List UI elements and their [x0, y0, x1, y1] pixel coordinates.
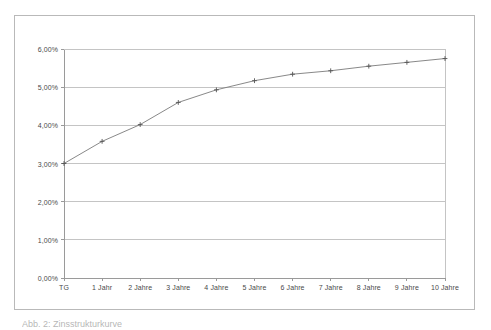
y-tick-label: 0,00%	[15, 275, 58, 282]
x-tick-label: TG	[59, 284, 69, 291]
data-point-marker	[214, 87, 219, 92]
x-tick-label: 4 Jahre	[204, 284, 228, 291]
x-tick-label: 8 Jahre	[357, 284, 381, 291]
y-tick-label: 5,00%	[15, 84, 58, 91]
figure-caption: Abb. 2: Zinsstrukturkurve	[22, 319, 122, 330]
x-tick-label: 6 Jahre	[281, 284, 305, 291]
y-tick-label: 2,00%	[15, 198, 58, 205]
data-point-marker	[100, 139, 105, 144]
x-tick-label: 1 Jahr	[92, 284, 112, 291]
x-tick-label: 10 Jahre	[431, 284, 459, 291]
y-tick-label: 1,00%	[15, 236, 58, 243]
data-line-zinssatz	[64, 59, 445, 164]
data-point-marker	[176, 100, 181, 105]
plot-area: 0,00%1,00%2,00%3,00%4,00%5,00%6,00%TG1 J…	[15, 16, 476, 311]
data-point-marker	[405, 60, 410, 65]
data-point-marker	[443, 56, 448, 61]
x-tick-label: 2 Jahre	[128, 284, 152, 291]
data-point-marker	[366, 64, 371, 69]
data-point-marker	[290, 72, 295, 77]
x-tick-label: 3 Jahre	[166, 284, 190, 291]
x-tick-label: 7 Jahre	[319, 284, 343, 291]
chart-figure: 0,00%1,00%2,00%3,00%4,00%5,00%6,00%TG1 J…	[14, 15, 475, 310]
chart-canvas	[15, 16, 476, 311]
data-point-marker	[62, 161, 67, 166]
x-tick-label: 9 Jahre	[395, 284, 419, 291]
y-tick-label: 3,00%	[15, 160, 58, 167]
data-point-marker	[138, 122, 143, 127]
data-point-marker	[328, 68, 333, 73]
data-point-marker	[252, 78, 257, 83]
y-tick-label: 4,00%	[15, 122, 58, 129]
y-tick-label: 6,00%	[15, 46, 58, 53]
x-tick-label: 5 Jahre	[242, 284, 266, 291]
